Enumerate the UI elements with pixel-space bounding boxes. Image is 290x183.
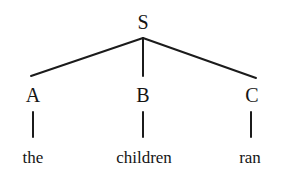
tree-node-root-s: S (137, 12, 148, 32)
tree-terminal-the: the (23, 149, 44, 166)
syntax-tree-figure: S A B C the children ran (0, 0, 290, 183)
edge-s-to-c (143, 38, 256, 78)
edge-s-to-a (31, 38, 143, 76)
tree-node-c: C (245, 85, 258, 105)
tree-terminal-children: children (116, 149, 172, 166)
tree-terminal-ran: ran (239, 149, 261, 166)
tree-node-a: A (26, 85, 40, 105)
tree-node-b: B (136, 85, 149, 105)
